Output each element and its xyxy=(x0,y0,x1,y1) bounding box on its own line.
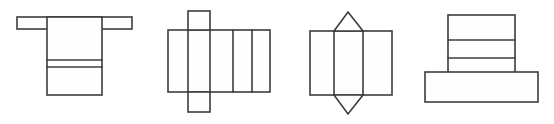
vertical-body xyxy=(47,17,102,95)
bottom-flap-square xyxy=(188,92,210,112)
geometric-nets-figure xyxy=(0,0,554,124)
nets-svg-canvas xyxy=(0,0,554,124)
top-flap-square xyxy=(188,11,210,30)
main-rectangle xyxy=(310,31,392,95)
main-strip xyxy=(168,30,270,92)
bottom-horizontal-bar xyxy=(425,72,538,102)
